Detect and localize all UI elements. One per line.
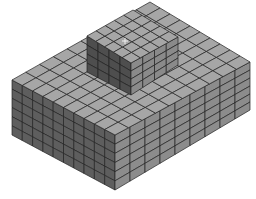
mesh-canvas (0, 0, 256, 199)
mesh-figure: Hexahedral finite element mesh of steppe… (0, 0, 256, 199)
